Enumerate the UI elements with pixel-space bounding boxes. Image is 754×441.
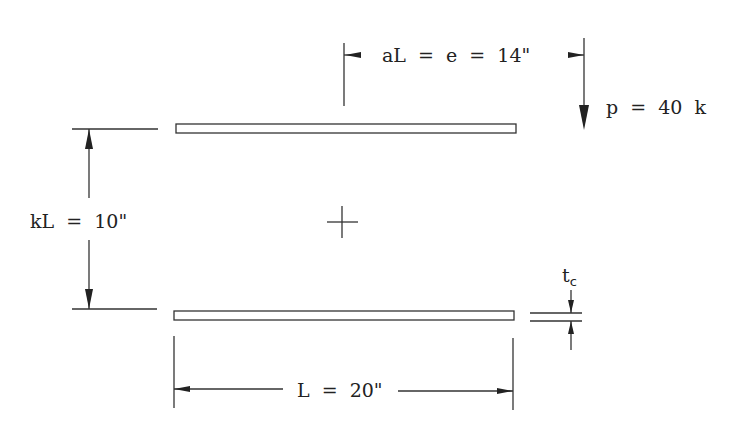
bottom-plate [174, 311, 514, 320]
thickness-dimension [530, 290, 582, 350]
arrowhead-right-icon [497, 388, 513, 394]
diagram-canvas: kL = 10" aL = e = 14" p = 40 k L = 20" t… [0, 0, 754, 441]
centroid-cross-icon [327, 206, 358, 238]
eccentricity-label: aL = e = 14" [382, 44, 530, 66]
kl-label: kL = 10" [30, 210, 127, 232]
arrowhead-up-icon [568, 321, 574, 334]
arrowhead-down-icon [85, 289, 93, 309]
arrowhead-left-icon [174, 386, 190, 392]
arrowhead-left-icon [345, 52, 361, 58]
length-label: L = 20" [297, 379, 383, 401]
load-label: p = 40 k [606, 96, 706, 118]
arrowhead-up-icon [85, 129, 93, 149]
arrowhead-right-icon [568, 52, 584, 58]
load-arrow [579, 38, 589, 130]
thickness-label: tc [562, 264, 577, 289]
arrowhead-down-icon [579, 105, 589, 130]
top-plate [176, 124, 516, 133]
arrowhead-down-icon [568, 300, 574, 313]
